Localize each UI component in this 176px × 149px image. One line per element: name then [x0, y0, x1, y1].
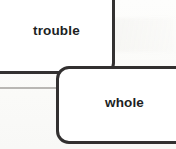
- node-whole[interactable]: whole: [56, 66, 176, 144]
- diagram-canvas: trouble whole: [0, 0, 176, 149]
- node-whole-label: whole: [105, 96, 144, 110]
- node-trouble-label: trouble: [33, 24, 80, 38]
- thin-left-connector: [0, 87, 58, 89]
- node-trouble[interactable]: trouble: [0, 0, 115, 74]
